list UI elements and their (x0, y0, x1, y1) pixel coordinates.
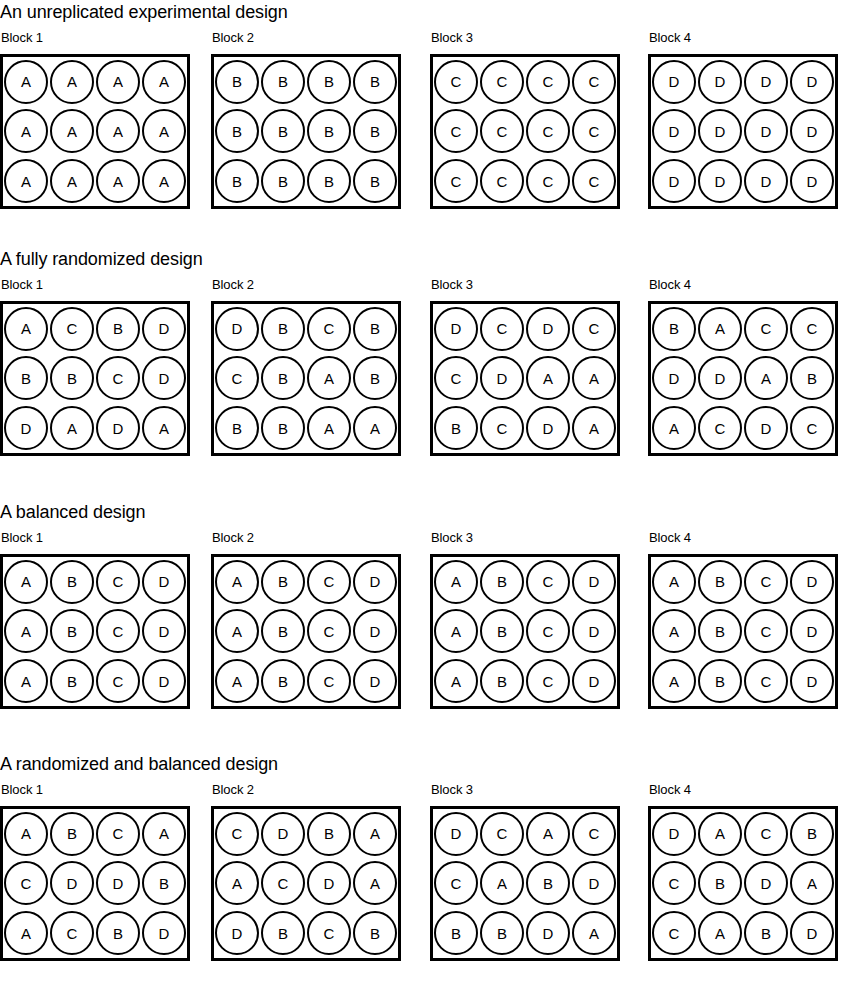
plot-circle: C (526, 60, 570, 104)
plot-circle: C (96, 812, 140, 856)
plot-circle: C (572, 109, 616, 153)
plot-circle: B (698, 659, 742, 703)
plot-circle: B (261, 307, 305, 351)
plot-circle: C (434, 159, 478, 203)
plot-circle: B (353, 109, 397, 153)
plot-circle: B (307, 812, 351, 856)
plot-circle: B (434, 911, 478, 955)
blocks-row: Block 1 AAAAAAAAAAAA Block 2 BBBBBBBBBBB… (0, 30, 845, 218)
plot-circle: B (307, 159, 351, 203)
plot-circle: A (434, 609, 478, 653)
plot-circle: C (526, 159, 570, 203)
plot-circle: D (526, 406, 570, 450)
plot-circle: A (50, 60, 94, 104)
plot-circle: A (4, 307, 48, 351)
plot-circle: A (215, 560, 259, 604)
plot-circle: C (572, 307, 616, 351)
plot-circle: A (4, 812, 48, 856)
section-title: A randomized and balanced design (0, 754, 278, 774)
plot-circle: C (434, 861, 478, 905)
plot-circle: C (307, 911, 351, 955)
block-label: Block 4 (649, 277, 691, 292)
plot-circle: A (50, 109, 94, 153)
plot-circle: A (215, 659, 259, 703)
plot-circle: C (790, 406, 834, 450)
plot-circle: D (572, 861, 616, 905)
plot-circle: B (307, 60, 351, 104)
blocks-row: Block 1 ACBDBBCDDADA Block 2 DBCBCBABBBA… (0, 277, 845, 465)
plot-circle: A (353, 861, 397, 905)
plot-circle: D (434, 307, 478, 351)
plot-circle: B (652, 307, 696, 351)
plot-circle: C (480, 159, 524, 203)
plot-circle: C (434, 109, 478, 153)
plot-circle: B (50, 560, 94, 604)
plot-circle: D (790, 560, 834, 604)
plot-circle: D (142, 307, 186, 351)
plot-circle: C (790, 307, 834, 351)
plot-circle: D (652, 109, 696, 153)
plot-circle: D (744, 861, 788, 905)
plot-circle: B (261, 911, 305, 955)
block-box: DCACCABDBBDA (430, 806, 620, 961)
plot-circle: C (96, 609, 140, 653)
plot-circle: B (96, 307, 140, 351)
plot-circle: A (698, 812, 742, 856)
plot-circle: C (526, 659, 570, 703)
plot-circle: A (215, 609, 259, 653)
plot-circle: B (215, 60, 259, 104)
plot-circle: D (744, 406, 788, 450)
plot-circle: B (261, 356, 305, 400)
block-panel: Block 2 ABCDABCDABCD (211, 530, 401, 718)
block-label: Block 4 (649, 530, 691, 545)
plot-circle: C (215, 812, 259, 856)
block-label: Block 1 (1, 277, 43, 292)
plot-circle: A (142, 60, 186, 104)
plot-circle: C (50, 307, 94, 351)
plot-circle: A (96, 159, 140, 203)
block-label: Block 4 (649, 30, 691, 45)
experimental-design-figure: An unreplicated experimental design Bloc… (0, 0, 845, 1002)
section-title: A balanced design (0, 502, 145, 522)
plot-circle: D (215, 307, 259, 351)
plot-circle: D (142, 356, 186, 400)
plot-circle: A (434, 659, 478, 703)
block-panel: Block 3 DCDCCDAABCDA (430, 277, 620, 465)
block-panel: Block 1 ACBDBBCDDADA (0, 277, 190, 465)
plot-circle: A (526, 356, 570, 400)
plot-circle: D (261, 812, 305, 856)
plot-circle: B (434, 406, 478, 450)
plot-circle: D (652, 812, 696, 856)
plot-circle: D (652, 159, 696, 203)
plot-circle: D (744, 109, 788, 153)
plot-circle: C (96, 659, 140, 703)
plot-circle: B (790, 356, 834, 400)
plot-grid: CCCCCCCCCCCC (433, 57, 617, 206)
plot-circle: B (353, 911, 397, 955)
block-panel: Block 4 DDDDDDDDDDDD (648, 30, 838, 218)
plot-circle: C (744, 560, 788, 604)
plot-circle: D (698, 109, 742, 153)
plot-circle: D (215, 911, 259, 955)
block-panel: Block 3 DCACCABDBBDA (430, 782, 620, 970)
block-label: Block 3 (431, 782, 473, 797)
block-panel: Block 1 AAAAAAAAAAAA (0, 30, 190, 218)
block-box: CCCCCCCCCCCC (430, 54, 620, 209)
plot-circle: D (526, 911, 570, 955)
plot-circle: C (434, 356, 478, 400)
block-box: BACCDDABACDC (648, 301, 838, 456)
plot-circle: A (353, 812, 397, 856)
plot-circle: B (50, 609, 94, 653)
plot-circle: A (480, 861, 524, 905)
plot-circle: C (572, 812, 616, 856)
plot-circle: D (744, 60, 788, 104)
plot-circle: B (261, 560, 305, 604)
plot-circle: D (480, 356, 524, 400)
plot-circle: A (572, 356, 616, 400)
plot-circle: C (96, 560, 140, 604)
plot-circle: D (572, 659, 616, 703)
plot-circle: B (353, 356, 397, 400)
plot-circle: A (96, 109, 140, 153)
plot-circle: B (261, 659, 305, 703)
plot-grid: ABCDABCDABCD (3, 557, 187, 706)
